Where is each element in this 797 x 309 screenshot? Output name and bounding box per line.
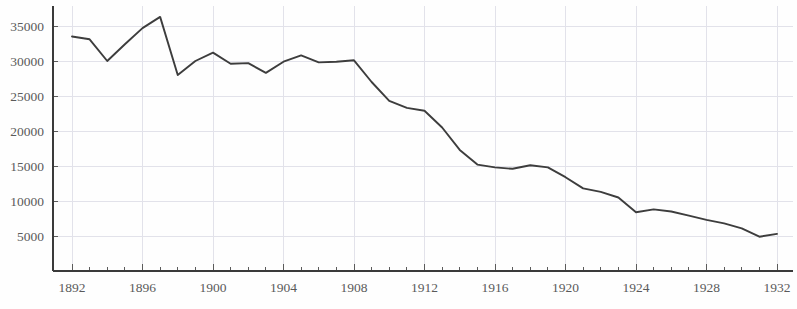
chart-plot-area: 5000100001500020000250003000035000 18921… [0, 0, 797, 309]
y-axis-tick-label: 20000 [10, 124, 44, 139]
x-axis-tick-label: 1892 [59, 280, 86, 295]
x-axis-tick-label: 1896 [129, 280, 156, 295]
y-axis-tick-label: 15000 [10, 159, 44, 174]
chart-background [0, 0, 797, 309]
x-axis-tick-label: 1904 [270, 280, 297, 295]
x-axis-tick-label: 1928 [693, 280, 720, 295]
x-axis-tick-label: 1900 [200, 280, 227, 295]
line-chart-figure: 5000100001500020000250003000035000 18921… [0, 0, 797, 309]
x-axis-tick-label: 1908 [341, 280, 368, 295]
x-axis-tick-label: 1916 [482, 280, 509, 295]
x-axis-tick-label: 1920 [552, 280, 579, 295]
x-axis-tick-label: 1932 [764, 280, 791, 295]
y-axis-tick-label: 25000 [10, 89, 44, 104]
x-axis-tick-label: 1912 [411, 280, 438, 295]
y-axis-tick-label: 5000 [17, 229, 44, 244]
y-axis-tick-label: 30000 [10, 54, 44, 69]
y-axis-tick-label: 35000 [10, 19, 44, 34]
y-axis-tick-label: 10000 [10, 194, 44, 209]
x-axis-tick-label: 1924 [623, 280, 650, 295]
